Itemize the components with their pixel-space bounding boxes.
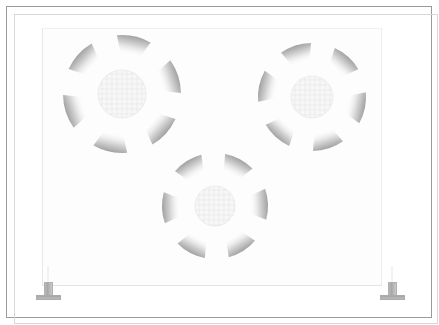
fan-hub [291, 76, 333, 118]
fan-blade [224, 223, 255, 257]
foot-left [36, 282, 61, 300]
fan-blade [313, 118, 343, 151]
fan-blade [281, 43, 311, 76]
panel-left-edge [42, 28, 43, 286]
fan-blade [334, 92, 366, 123]
foot-base [380, 295, 405, 300]
fan-blade [63, 95, 98, 128]
figure-caption: Faded technical line drawing: mounting p… [0, 16, 1, 17]
panel-right-edge [381, 28, 382, 286]
foot-post [44, 282, 53, 296]
foot-shaft [391, 266, 393, 282]
panel-bottom-edge [42, 285, 382, 286]
fan-blade [146, 60, 181, 93]
fan-blade [325, 48, 358, 82]
fan-blade [117, 35, 151, 69]
fan-lower-center [148, 139, 282, 273]
fan-blade [93, 119, 127, 153]
fan-blade [175, 155, 206, 189]
fan-blade [238, 189, 268, 220]
fan-blade [162, 192, 192, 223]
foot-right [380, 282, 405, 300]
fan-blade [222, 154, 252, 188]
foot-shaft [47, 266, 49, 282]
figure-root: Faded technical line drawing: mounting p… [0, 0, 439, 325]
fan-blade [69, 43, 105, 79]
fan-blade [258, 71, 290, 102]
foot-base [36, 295, 61, 300]
fan-blade [178, 224, 208, 258]
foot-post [388, 282, 397, 296]
